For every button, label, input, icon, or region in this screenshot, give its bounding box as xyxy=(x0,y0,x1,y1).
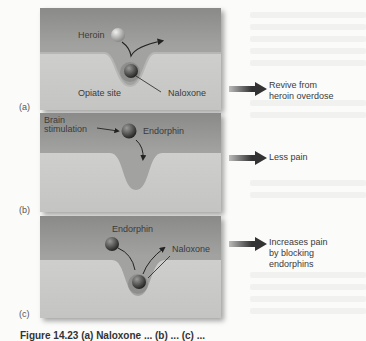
outcome-c: Increases pain by blocking endorphins xyxy=(269,237,328,270)
panel-b: Brain stimulation Endorphin xyxy=(40,113,221,212)
label-naloxone-c: Naloxone xyxy=(172,244,210,254)
outcome-b-line1: Less pain xyxy=(269,152,308,163)
outcome-b: Less pain xyxy=(269,152,308,163)
outcome-c-line2: by blocking xyxy=(269,248,328,259)
outcome-arrow-c-icon xyxy=(229,237,267,251)
outcome-c-line1: Increases pain xyxy=(269,237,328,248)
label-endorphin-c: Endorphin xyxy=(112,224,153,234)
label-endorphin: Endorphin xyxy=(143,126,184,136)
outcome-a-line2: heroin overdose xyxy=(269,91,334,102)
label-heroin: Heroin xyxy=(78,30,105,40)
outcome-arrow-b-icon xyxy=(229,151,267,165)
outcome-arrow-a-icon xyxy=(229,82,267,96)
outcome-c-line3: endorphins xyxy=(269,259,328,270)
panel-tag-b: (b) xyxy=(19,205,30,215)
outcome-a: Revive from heroin overdose xyxy=(269,80,334,102)
figure-caption: Figure 14.23 (a) Naloxone ... (b) ... (c… xyxy=(20,330,205,341)
panel-a: Heroin Opiate site Naloxone xyxy=(40,8,221,110)
outcome-a-line1: Revive from xyxy=(269,80,334,91)
label-stimulation: stimulation xyxy=(44,124,87,134)
panel-tag-a: (a) xyxy=(19,102,30,112)
label-opiate-site: Opiate site xyxy=(78,88,121,98)
label-naloxone: Naloxone xyxy=(168,88,206,98)
panel-tag-c: (c) xyxy=(19,309,30,319)
panel-c: Endorphin Naloxone xyxy=(40,216,221,318)
